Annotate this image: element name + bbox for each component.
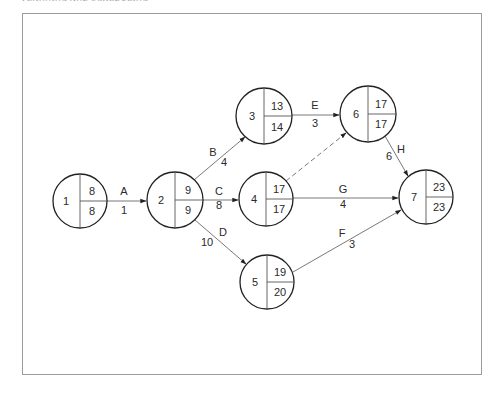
node-5-latest: 20 (274, 286, 286, 298)
node-2-id: 2 (158, 194, 164, 206)
edge-label-D: D (219, 226, 227, 238)
node-1-earliest: 8 (89, 185, 95, 197)
edge-label-A: A (120, 185, 128, 197)
node-2: 2 9 9 (147, 172, 203, 228)
edge-F (293, 210, 401, 272)
node-6: 6 17 17 (340, 86, 396, 142)
edge-duration-F: 3 (349, 238, 355, 250)
node-7: 7 23 23 (399, 170, 453, 224)
node-4: 4 17 17 (239, 172, 293, 226)
node-1-latest: 8 (89, 205, 95, 217)
node-4-latest: 17 (273, 203, 285, 215)
edge-label-G: G (339, 183, 348, 195)
activity-network-diagram: A 1 B 4 C 8 D 10 E 3 G 4 F 3 H 6 1 8 8 (0, 0, 500, 397)
node-4-id: 4 (251, 193, 257, 205)
node-3-id: 3 (249, 110, 255, 122)
node-1: 1 8 8 (53, 174, 107, 228)
node-3-latest: 14 (271, 121, 283, 133)
node-5: 5 19 20 (240, 255, 294, 309)
node-6-id: 6 (353, 108, 359, 120)
node-7-id: 7 (411, 191, 417, 203)
edge-duration-D: 10 (201, 236, 213, 248)
node-6-latest: 17 (375, 118, 387, 130)
edge-dummy-4-6 (286, 133, 346, 181)
node-3: 3 13 14 (236, 88, 292, 144)
node-6-earliest: 17 (375, 98, 387, 110)
edge-label-E: E (311, 99, 318, 111)
node-2-latest: 9 (185, 204, 191, 216)
nodes: 1 8 8 2 9 9 3 13 14 4 17 1 (53, 86, 453, 309)
edge-B (194, 137, 245, 180)
edge-label-C: C (215, 185, 223, 197)
edge-duration-C: 8 (216, 199, 222, 211)
edge-duration-H: 6 (386, 150, 392, 162)
node-2-earliest: 9 (185, 184, 191, 196)
edge-duration-E: 3 (312, 117, 318, 129)
edge-duration-G: 4 (340, 198, 346, 210)
edge-label-H: H (397, 143, 405, 155)
node-7-latest: 23 (433, 201, 445, 213)
node-5-id: 5 (252, 276, 258, 288)
node-4-earliest: 17 (273, 183, 285, 195)
node-7-earliest: 23 (433, 181, 445, 193)
node-1-id: 1 (63, 195, 69, 207)
edge-duration-B: 4 (221, 156, 227, 168)
edge-label-B: B (209, 146, 216, 158)
edge-duration-A: 1 (121, 204, 127, 216)
node-3-earliest: 13 (271, 100, 283, 112)
node-5-earliest: 19 (274, 266, 286, 278)
edge-label-F: F (339, 227, 346, 239)
